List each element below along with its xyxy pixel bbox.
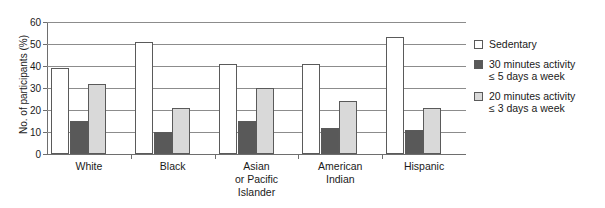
x-axis-category-label: Asian or Pacific Islander: [215, 160, 299, 199]
bar: [154, 132, 172, 154]
bar-chart-figure: No. of participants (%) 0102030405060 Wh…: [0, 0, 605, 208]
bar-group: [215, 22, 299, 154]
chart-legend: Sedentary30 minutes activity ≤ 5 days a …: [474, 38, 605, 122]
legend-item: 30 minutes activity ≤ 5 days a week: [474, 58, 605, 83]
bar: [302, 64, 320, 154]
legend-swatch: [474, 92, 483, 101]
bar: [70, 121, 88, 154]
y-tick-label: 20: [30, 105, 41, 116]
plot-area: 0102030405060: [47, 22, 466, 155]
bar: [423, 108, 441, 154]
bar: [321, 128, 339, 154]
x-axis-category-label: Black: [131, 160, 215, 173]
legend-item: 20 minutes activity ≤ 3 days a week: [474, 90, 605, 115]
bar-group: [298, 22, 382, 154]
bar: [238, 121, 256, 154]
legend-label: Sedentary: [489, 38, 537, 51]
y-tick-label: 0: [35, 149, 41, 160]
legend-label: 30 minutes activity ≤ 5 days a week: [489, 58, 575, 83]
y-tick-label: 10: [30, 127, 41, 138]
bar: [172, 108, 190, 154]
legend-swatch: [474, 40, 483, 49]
bar-groups: [47, 22, 466, 155]
bar: [135, 42, 153, 154]
bar: [386, 37, 404, 154]
y-tick-label: 40: [30, 61, 41, 72]
bar: [339, 101, 357, 154]
bar-group: [47, 22, 131, 154]
bar: [256, 88, 274, 154]
y-tick-label: 60: [30, 17, 41, 28]
bar: [51, 68, 69, 154]
bar: [405, 130, 423, 154]
x-axis-category-label: American Indian: [298, 160, 382, 186]
bar: [88, 84, 106, 154]
x-axis-category-label: White: [47, 160, 131, 173]
bar: [219, 64, 237, 154]
legend-swatch: [474, 60, 483, 69]
bar-group: [131, 22, 215, 154]
legend-item: Sedentary: [474, 38, 605, 51]
x-tick-mark: [382, 155, 383, 159]
bar-group: [382, 22, 466, 154]
y-tick-label: 50: [30, 39, 41, 50]
x-tick-mark: [131, 155, 132, 159]
y-axis-title: No. of participants (%): [18, 15, 29, 155]
x-tick-mark: [215, 155, 216, 159]
x-tick-mark: [298, 155, 299, 159]
legend-label: 20 minutes activity ≤ 3 days a week: [489, 90, 575, 115]
x-axis-category-label: Hispanic: [382, 160, 466, 173]
y-tick-label: 30: [30, 83, 41, 94]
